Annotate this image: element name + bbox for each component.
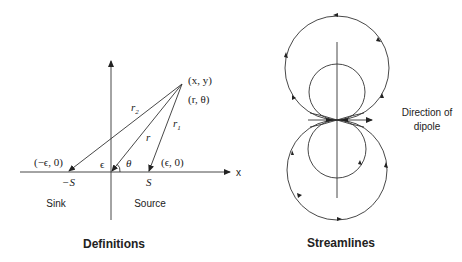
r-label: r bbox=[146, 131, 151, 143]
eps-point-label: (ϵ, 0) bbox=[161, 156, 184, 169]
direction-label-line2: dipole bbox=[414, 121, 441, 132]
flow-arrow-icon bbox=[297, 193, 302, 198]
flow-arrow-icon bbox=[358, 160, 362, 165]
theta-arc bbox=[117, 164, 120, 172]
definitions-title: Definitions bbox=[83, 237, 145, 251]
dipole-figure: x (x, y) (r, θ) r2 r1 r θ ϵ (−ϵ, 0) (ϵ, … bbox=[0, 0, 462, 262]
flow-arrow-icon bbox=[384, 162, 388, 168]
flow-arrow-icon bbox=[337, 217, 342, 221]
sink-label: Sink bbox=[46, 198, 66, 209]
flow-arrow-icon bbox=[380, 93, 384, 98]
neg-eps-point-label: (−ϵ, 0) bbox=[34, 156, 63, 169]
streamlines-title: Streamlines bbox=[307, 236, 375, 250]
direction-label-line1: Direction of bbox=[402, 107, 453, 118]
point-rtheta-label: (r, θ) bbox=[188, 93, 210, 106]
streamlines-diagram: Direction of dipole Streamlines bbox=[284, 13, 453, 250]
source-point-label: S bbox=[146, 176, 152, 188]
epsilon-label: ϵ bbox=[100, 158, 105, 170]
source-label: Source bbox=[134, 198, 166, 209]
x-axis-label: x bbox=[236, 167, 241, 178]
theta-label: θ bbox=[126, 157, 132, 169]
r2-label: r2 bbox=[131, 101, 139, 116]
sink-point-label: −S bbox=[62, 176, 75, 188]
r1-label: r1 bbox=[173, 117, 181, 132]
point-xy-label: (x, y) bbox=[188, 74, 212, 87]
definitions-diagram: x (x, y) (r, θ) r2 r1 r θ ϵ (−ϵ, 0) (ϵ, … bbox=[20, 61, 241, 251]
flow-arrow-icon bbox=[291, 150, 294, 155]
